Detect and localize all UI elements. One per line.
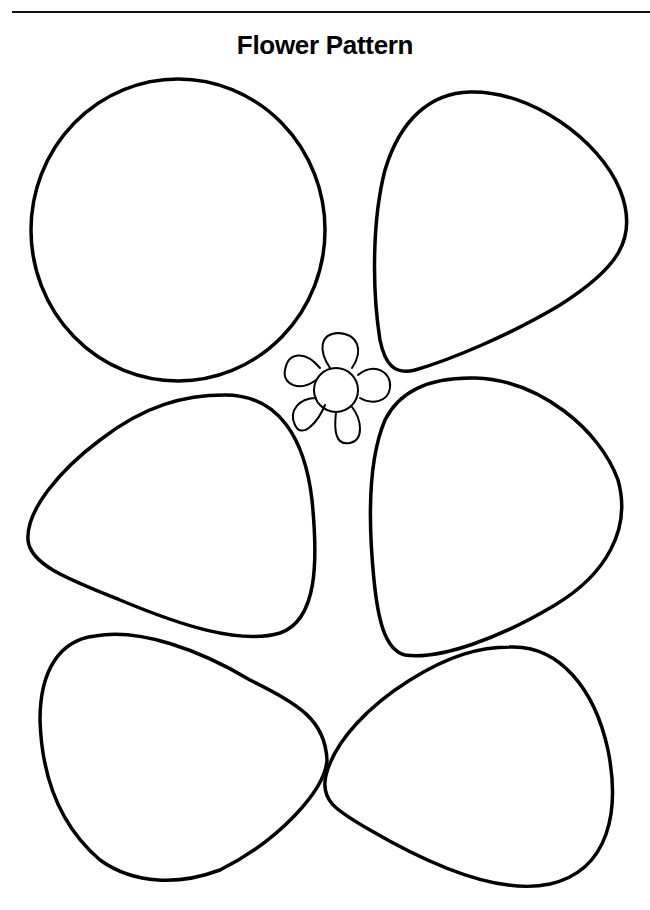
large-round-petal-shape — [31, 79, 325, 381]
petal-middle-left-shape — [28, 395, 315, 637]
petal-bottom-right-shape — [325, 647, 613, 886]
petal-top-right-shape — [375, 92, 627, 371]
pattern-canvas — [0, 0, 650, 910]
petal-bottom-left-shape — [40, 634, 327, 880]
petal-middle-right-shape — [370, 378, 621, 656]
flower-example-icon — [285, 333, 390, 443]
